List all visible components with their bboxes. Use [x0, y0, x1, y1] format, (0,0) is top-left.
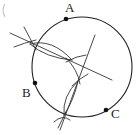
label-b: B [22, 85, 31, 100]
circumcircle [32, 17, 132, 117]
bisector-bc-line [60, 35, 95, 130]
bisector-ab-construction [10, 27, 112, 80]
circle-construction-diagram: A B C [0, 0, 140, 135]
bisector-ab-line [10, 33, 112, 80]
point-c [104, 108, 109, 113]
label-c: C [111, 106, 120, 121]
point-a [64, 17, 69, 22]
label-a: A [65, 0, 75, 15]
point-b [33, 81, 38, 86]
arc-tick-ab-1 [24, 27, 36, 50]
edge-artifact [3, 4, 5, 17]
